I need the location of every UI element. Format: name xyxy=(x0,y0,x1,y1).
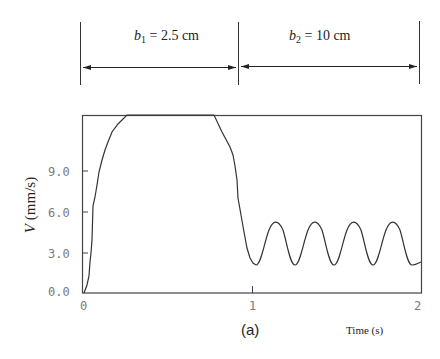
segment2-label: b2 = 10 cm xyxy=(289,28,351,45)
y-tick-label: 9.0 xyxy=(48,165,70,179)
plot-frame xyxy=(83,116,422,294)
arrowhead-icon xyxy=(228,65,236,70)
y-tick-label: 3.0 xyxy=(48,247,70,261)
segment1-label: b1 = 2.5 cm xyxy=(134,28,199,45)
velocity-line xyxy=(84,115,421,293)
arrowhead-icon xyxy=(83,65,91,70)
x-tick-label: 1 xyxy=(249,299,256,313)
segment-annotation: b1 = 2.5 cm b2 = 10 cm xyxy=(81,21,420,85)
y-axis-label: V (mm/s) xyxy=(22,177,39,233)
arrowhead-icon xyxy=(241,64,249,69)
x-tick-label: 2 xyxy=(414,299,421,313)
y-tick-label: 6.0 xyxy=(48,206,70,220)
arrowhead-icon xyxy=(409,64,417,69)
y-tick-label: 0.0 xyxy=(48,285,70,299)
x-tick-label: 0 xyxy=(80,299,87,313)
chart: b1 = 2.5 cm b2 = 10 cm 9.0 6.0 3.0 0.0 0… xyxy=(0,0,440,359)
x-axis-label: Time (s) xyxy=(346,324,384,337)
panel-label: (a) xyxy=(241,321,259,338)
